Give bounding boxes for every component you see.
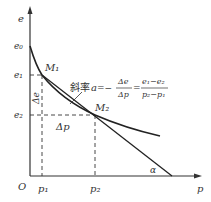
origin-label: O — [18, 181, 26, 192]
y-axis-arrow-icon — [28, 6, 33, 14]
tick-e0: e₀ — [14, 41, 23, 51]
frac1-den: Δp — [117, 90, 129, 99]
y-axis-label: e — [18, 13, 24, 24]
frac2-den: p₂−p₁ — [142, 90, 165, 99]
slope-prefix: 斜率 — [70, 81, 90, 93]
tick-e2: e₂ — [14, 110, 23, 120]
point-m2: M₂ — [94, 102, 109, 113]
e-p-curve-diagram: e p O e₀ e₁ e₂ p₁ p₂ M₁ M₂ Δe Δp α 斜率 a … — [0, 0, 211, 202]
angle-alpha-label: α — [150, 165, 156, 175]
slope-eq: =− — [97, 83, 112, 93]
tick-e1: e₁ — [14, 70, 23, 80]
tick-p1: p₁ — [38, 183, 48, 194]
frac2-num: e₁−e₂ — [142, 77, 165, 86]
delta-e-label: Δe — [31, 92, 41, 105]
slope-eq2: = — [133, 83, 141, 93]
x-axis-arrow-icon — [194, 174, 202, 179]
frac1-num: Δe — [117, 77, 129, 86]
tick-p2: p₂ — [90, 183, 100, 194]
delta-p-label: Δp — [55, 121, 70, 132]
point-m1: M₁ — [44, 62, 59, 73]
x-axis-label: p — [197, 183, 204, 194]
slope-formula: 斜率 a =− Δe Δp = e₁−e₂ p₂−p₁ — [70, 77, 168, 99]
